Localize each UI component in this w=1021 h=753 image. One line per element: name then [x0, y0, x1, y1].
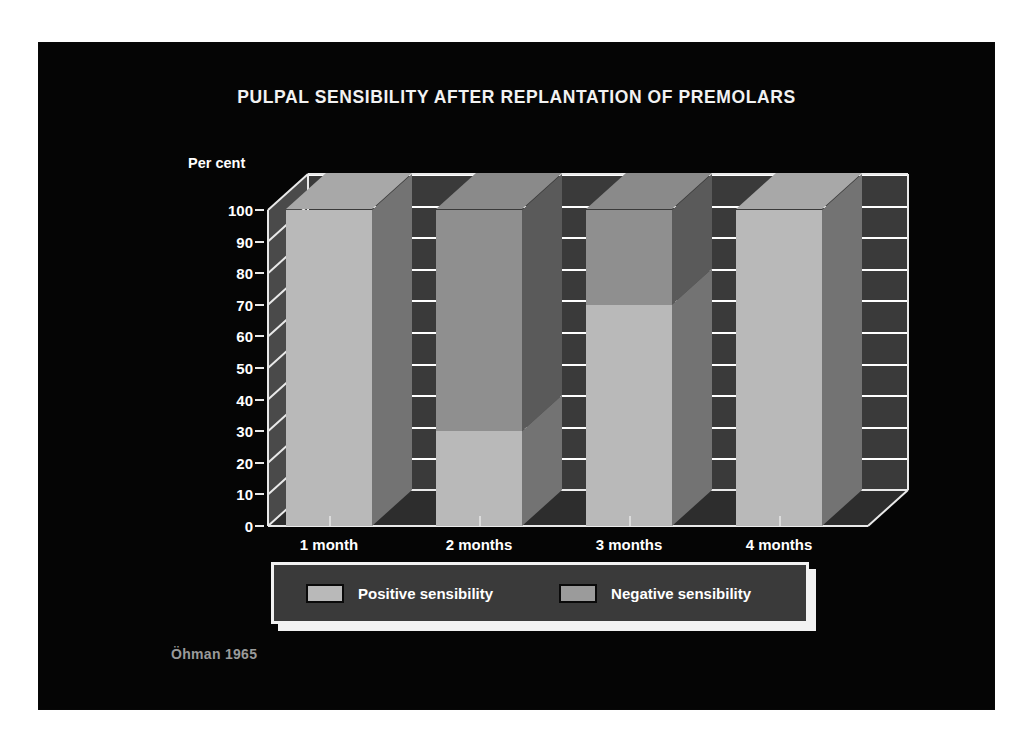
- bar-segment-positive[interactable]: [586, 305, 672, 526]
- y-tick-label-0: 0: [195, 519, 253, 534]
- y-tick-label-40: 40: [195, 392, 253, 407]
- legend-label-positive: Positive sensibility: [358, 585, 493, 602]
- y-tick-mark-80: [255, 272, 264, 274]
- slide-canvas: PULPAL SENSIBILITY AFTER REPLANTATION OF…: [38, 42, 995, 710]
- y-tick-label-80: 80: [195, 266, 253, 281]
- legend-item-negative[interactable]: Negative sensibility: [559, 584, 751, 603]
- x-tick-mark: [479, 516, 481, 526]
- bar-front-face: [586, 210, 672, 526]
- y-tick-mark-60: [255, 335, 264, 337]
- y-tick-mark-90: [255, 241, 264, 243]
- x-axis-label-4-months: 4 months: [709, 536, 849, 553]
- y-tick-mark-20: [255, 462, 264, 464]
- plot-area: Per cent 1009080706050403020100: [188, 150, 908, 550]
- y-tick-mark-100: [255, 209, 264, 211]
- bar-side-face: [822, 174, 862, 526]
- x-tick-mark: [779, 516, 781, 526]
- legend-item-positive[interactable]: Positive sensibility: [306, 584, 493, 603]
- bar-side-face: [372, 174, 412, 526]
- y-tick-mark-70: [255, 304, 264, 306]
- y-tick-mark-30: [255, 430, 264, 432]
- y-tick-label-10: 10: [195, 487, 253, 502]
- y-tick-label-20: 20: [195, 455, 253, 470]
- bar-segment-positive[interactable]: [736, 210, 822, 526]
- x-axis-label-3-months: 3 months: [559, 536, 699, 553]
- y-tick-mark-0: [255, 525, 264, 527]
- bar-top-cap: [436, 173, 562, 210]
- legend-swatch-negative-icon: [559, 584, 597, 603]
- legend-swatch-positive-icon: [306, 584, 344, 603]
- bar-segment-negative[interactable]: [436, 210, 522, 431]
- bar-side-face: [522, 174, 562, 526]
- y-tick-mark-50: [255, 367, 264, 369]
- x-tick-mark: [329, 516, 331, 526]
- bar-top-cap: [736, 173, 862, 210]
- bar-segment-positive[interactable]: [286, 210, 372, 526]
- y-tick-label-50: 50: [195, 361, 253, 376]
- y-tick-mark-10: [255, 493, 264, 495]
- bar-top-cap: [286, 173, 412, 210]
- chart-3d-scene: 1 month2 months3 months4 months: [268, 174, 908, 526]
- legend-label-negative: Negative sensibility: [611, 585, 751, 602]
- bar-segment-negative[interactable]: [586, 210, 672, 305]
- x-axis-label-2-months: 2 months: [409, 536, 549, 553]
- bar-2-months[interactable]: [436, 210, 522, 526]
- bar-segment-positive[interactable]: [436, 431, 522, 526]
- bar-3-months[interactable]: [586, 210, 672, 526]
- bar-side-face: [672, 174, 712, 526]
- y-tick-label-90: 90: [195, 234, 253, 249]
- y-tick-label-100: 100: [195, 203, 253, 218]
- bar-4-months[interactable]: [736, 210, 822, 526]
- y-tick-mark-40: [255, 399, 264, 401]
- bar-front-face: [286, 210, 372, 526]
- y-axis-title: Per cent: [188, 155, 245, 171]
- chart-legend: Positive sensibility Negative sensibilit…: [271, 562, 809, 624]
- bar-front-face: [736, 210, 822, 526]
- y-tick-label-30: 30: [195, 424, 253, 439]
- attribution-text: Öhman 1965: [171, 646, 257, 662]
- bar-front-face: [436, 210, 522, 526]
- x-axis-label-1-month: 1 month: [259, 536, 399, 553]
- y-tick-label-70: 70: [195, 297, 253, 312]
- bar-top-cap: [586, 173, 712, 210]
- y-tick-label-60: 60: [195, 329, 253, 344]
- chart-title: PULPAL SENSIBILITY AFTER REPLANTATION OF…: [38, 87, 995, 108]
- bar-1-month[interactable]: [286, 210, 372, 526]
- x-tick-mark: [629, 516, 631, 526]
